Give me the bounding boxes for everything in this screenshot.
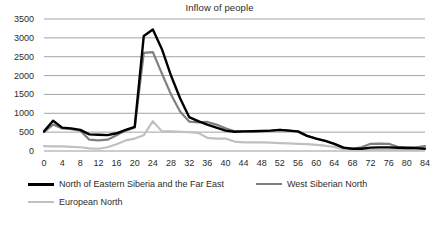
chart-container: Inflow of people 35003000250020001500100… [0, 0, 439, 229]
x-axis-tick-label: 40 [220, 158, 230, 168]
x-axis-tick-label: 56 [293, 158, 303, 168]
x-axis-tick-label: 72 [366, 158, 376, 168]
legend-item[interactable]: North of Eastern Siberia and the Far Eas… [28, 176, 224, 192]
x-axis-tick-label: 60 [311, 158, 321, 168]
legend-label: West Siberian North [287, 179, 367, 189]
chart-title: Inflow of people [0, 2, 439, 13]
x-axis-tick-label: 64 [329, 158, 339, 168]
chart-legend: North of Eastern Siberia and the Far Eas… [0, 176, 439, 226]
x-axis-tick-label: 12 [93, 158, 103, 168]
legend-color-swatch [28, 201, 54, 203]
x-axis-tick-label: 80 [402, 158, 412, 168]
x-axis-tick-label: 76 [384, 158, 394, 168]
x-axis-tick-label: 20 [130, 158, 140, 168]
x-axis-tick-label: 52 [275, 158, 285, 168]
x-axis-tick-label: 28 [166, 158, 176, 168]
x-axis: 0481216202428323640444852566064687276808… [0, 158, 439, 172]
legend-label: European North [59, 197, 123, 207]
x-axis-tick-label: 84 [420, 158, 430, 168]
x-axis-tick-label: 36 [202, 158, 212, 168]
legend-item[interactable]: West Siberian North [256, 176, 367, 192]
x-axis-tick-label: 4 [60, 158, 65, 168]
series-line-0 [44, 30, 425, 149]
legend-item[interactable]: European North [28, 194, 123, 210]
legend-row: North of Eastern Siberia and the Far Eas… [0, 176, 439, 192]
x-axis-tick-label: 8 [78, 158, 83, 168]
x-axis-tick-label: 48 [257, 158, 267, 168]
x-axis-tick-label: 0 [41, 158, 46, 168]
x-axis-tick-label: 68 [347, 158, 357, 168]
legend-row: European North [0, 194, 439, 210]
x-axis-tick-label: 44 [239, 158, 249, 168]
plot-area [0, 14, 439, 156]
chart-plot-svg [0, 14, 439, 156]
legend-color-swatch [28, 183, 54, 186]
x-axis-tick-label: 24 [148, 158, 158, 168]
x-axis-tick-label: 32 [184, 158, 194, 168]
x-axis-tick-label: 16 [112, 158, 122, 168]
legend-color-swatch [256, 183, 282, 185]
legend-label: North of Eastern Siberia and the Far Eas… [59, 179, 224, 189]
